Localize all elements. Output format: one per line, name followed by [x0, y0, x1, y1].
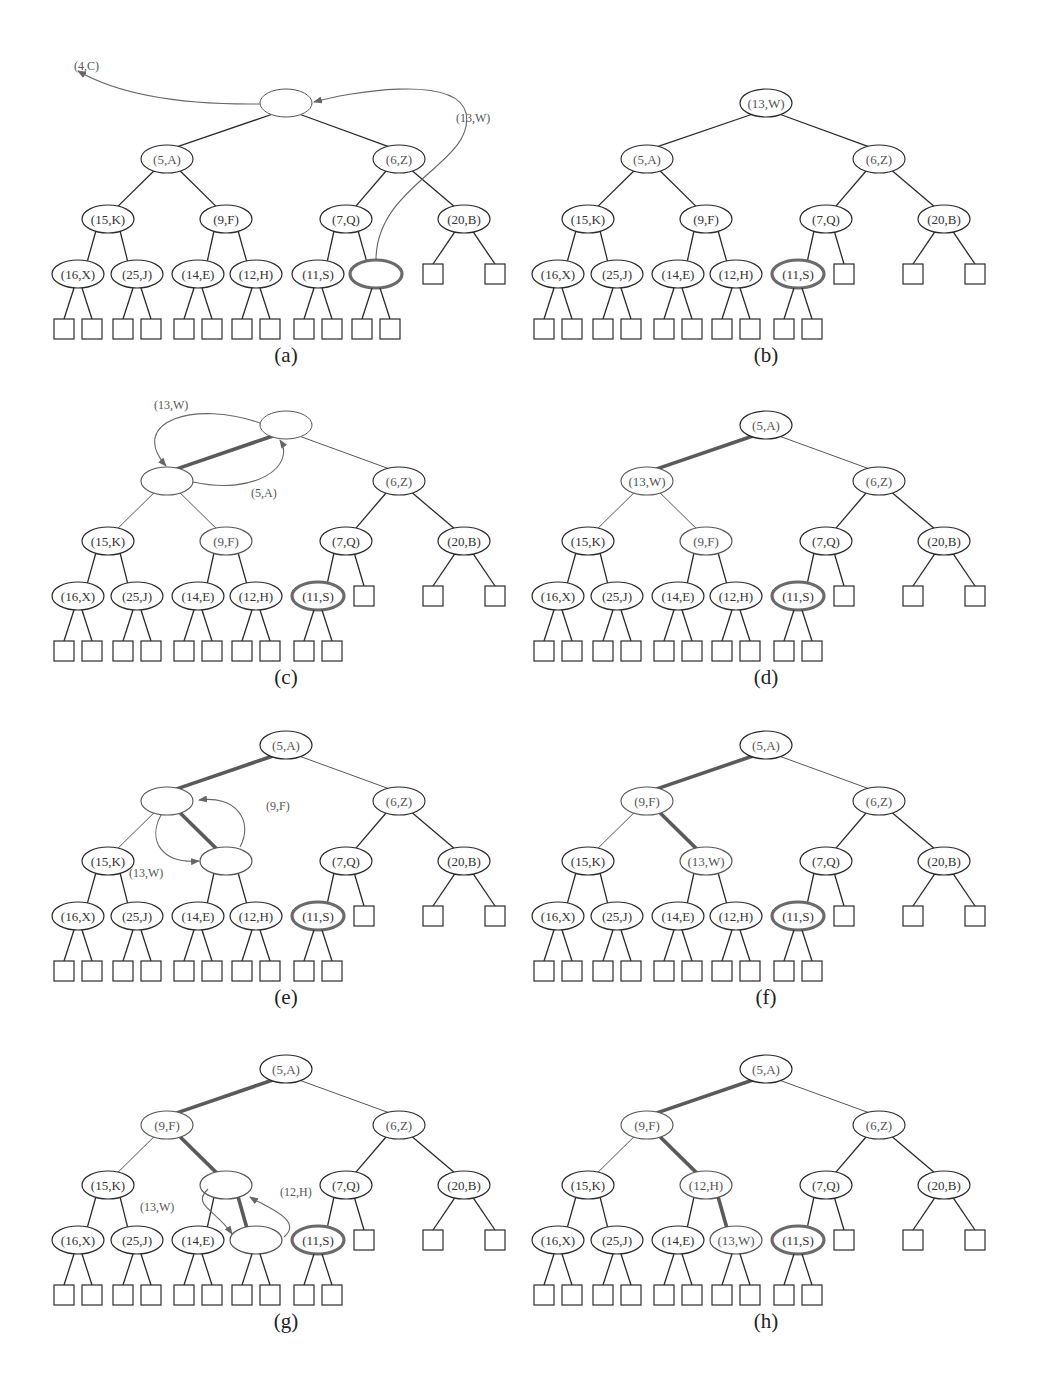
tree-edge [238, 872, 247, 905]
node-label: (20,B) [927, 534, 961, 549]
node-ellipse [200, 1171, 252, 1199]
tree-edge [179, 170, 217, 208]
heap-node: (9,F) [200, 205, 252, 233]
external-node-square [380, 319, 400, 339]
tree-edge [597, 492, 635, 530]
heap-node: (16,X) [52, 1226, 104, 1254]
external-node-square [352, 319, 372, 339]
tree-edge [834, 230, 844, 264]
node-label: (25,J) [602, 1233, 632, 1248]
tree-edge [600, 230, 608, 263]
tree-edge [687, 1196, 694, 1229]
tree-edge [664, 930, 674, 961]
tree-edge [891, 170, 935, 208]
tree-edge [184, 288, 194, 319]
node-label: (15,K) [571, 534, 605, 549]
tree-edge [472, 1196, 495, 1230]
node-label: (5,A) [752, 738, 780, 753]
tree-edge [567, 552, 576, 585]
tree-edge [740, 930, 750, 961]
swap-arrow [314, 89, 467, 260]
heap-node: (7,Q) [800, 1171, 852, 1199]
tree-edge [682, 288, 692, 319]
panel-b: (13,W)(5,A)(6,Z)(15,K)(9,F)(7,Q)(20,B)(1… [532, 89, 985, 367]
root-node: (5,A) [740, 731, 792, 759]
tree-edge [600, 1196, 608, 1229]
heap-node [200, 1171, 252, 1199]
downheap-path-edge [659, 1136, 697, 1174]
node-ellipse [260, 89, 312, 117]
node-label: (14,E) [182, 909, 215, 924]
heap-node: (9,F) [680, 205, 732, 233]
tree-edge [784, 288, 794, 319]
node-label: (20,B) [447, 534, 481, 549]
tree-edge [603, 610, 613, 641]
tree-edge [562, 610, 572, 641]
panel-caption: (f) [756, 985, 777, 1009]
external-node-square [232, 1285, 252, 1305]
node-label: (7,Q) [332, 212, 360, 227]
tree-edge [179, 492, 217, 530]
tree-edge [544, 288, 554, 319]
tree-edge [242, 1254, 252, 1285]
tree-edge [682, 930, 692, 961]
node-label: (20,B) [447, 1178, 481, 1193]
external-node-square [354, 586, 374, 606]
tree-edge [835, 170, 867, 208]
tree-edge [411, 812, 455, 850]
heap-node: (20,B) [438, 847, 490, 875]
node-label: (7,Q) [332, 1178, 360, 1193]
node-ellipse [200, 847, 252, 875]
external-node-square [113, 961, 133, 981]
tree-edge [141, 288, 151, 319]
last-node: (11,S) [772, 260, 824, 288]
external-node-square [834, 586, 854, 606]
heap-node: (14,E) [652, 902, 704, 930]
tree-edge [380, 288, 390, 319]
external-node-square [682, 319, 702, 339]
node-label: (11,S) [302, 589, 334, 604]
external-node-square [485, 586, 505, 606]
tree-edge [120, 552, 128, 585]
node-label: (14,E) [182, 1233, 215, 1248]
heap-node: (6,Z) [853, 1111, 905, 1139]
tree-edge [952, 230, 975, 264]
tree-edge [834, 552, 844, 586]
tree-edge [778, 436, 870, 470]
node-ellipse [350, 260, 402, 288]
external-node-square [113, 641, 133, 661]
heap-node: (20,B) [918, 527, 970, 555]
last-node: (11,S) [772, 582, 824, 610]
node-label: (12,H) [239, 909, 273, 924]
node-label: (15,K) [571, 212, 605, 227]
heap-node: (14,E) [652, 1226, 704, 1254]
heap-node: (15,K) [82, 527, 134, 555]
heap-node: (7,Q) [320, 847, 372, 875]
heap-node: (12,H) [710, 582, 762, 610]
external-node-square [82, 641, 102, 661]
external-node-square [834, 1230, 854, 1250]
tree-edge [718, 872, 727, 905]
node-label: (9,F) [154, 1118, 180, 1133]
tree-edge [327, 552, 334, 585]
tree-edge [807, 872, 814, 905]
heap-node: (11,S) [292, 260, 344, 288]
heap-node: (6,Z) [373, 467, 425, 495]
tree-edge [597, 1136, 635, 1174]
external-node-square [903, 906, 923, 926]
tree-edge [913, 1196, 936, 1230]
external-node-square [534, 1285, 554, 1305]
heap-node: (6,Z) [373, 145, 425, 173]
external-node-square [141, 319, 161, 339]
heap-node [230, 1226, 282, 1254]
node-label: (11,S) [782, 267, 814, 282]
node-label: (15,K) [91, 854, 125, 869]
external-node-square [593, 641, 613, 661]
tree-edge [87, 552, 96, 585]
tree-edge [807, 1196, 814, 1229]
tree-edge [207, 552, 214, 585]
last-node [350, 260, 402, 288]
tree-edge [355, 1136, 387, 1174]
heap-node: (20,B) [918, 1171, 970, 1199]
external-node-square [903, 1230, 923, 1250]
